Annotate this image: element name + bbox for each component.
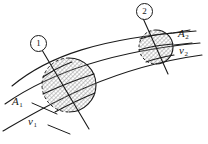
label-area-2-subscript: 2 (185, 33, 189, 41)
label-area-2: A2 (178, 28, 188, 39)
figure-canvas: A1 v1 A2 v2 1 2 (0, 0, 208, 144)
label-area-2-symbol: A (178, 27, 185, 39)
cross-section-1 (42, 58, 96, 112)
circled-number-2-marker: 2 (136, 3, 153, 20)
label-speed-2-subscript: 2 (184, 50, 188, 58)
label-speed-1-subscript: 1 (33, 121, 37, 129)
leader-v1 (48, 125, 70, 134)
label-speed-1: v1 (28, 116, 36, 127)
label-area-1: A1 (12, 96, 22, 107)
circled-number-1-marker: 1 (30, 35, 47, 52)
label-area-1-symbol: A (12, 95, 19, 107)
label-area-1-subscript: 1 (19, 101, 23, 109)
label-speed-2: v2 (179, 45, 187, 56)
